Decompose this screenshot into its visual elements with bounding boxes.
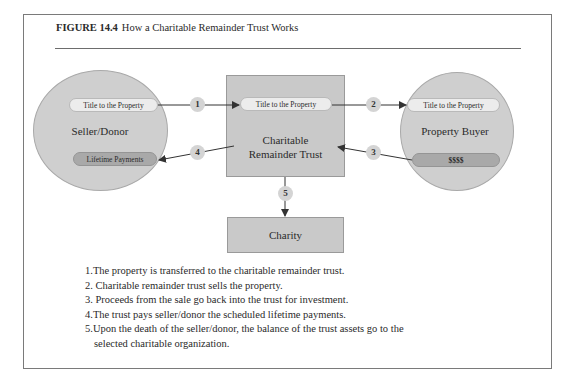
steps-list: 1.The property is transferred to the cha…	[85, 264, 545, 351]
step-item-4: 4.The trust pays seller/donor the schedu…	[85, 308, 545, 323]
step-badge-4: 4	[190, 145, 205, 160]
step-badge-2: 2	[366, 97, 381, 112]
step-badge-3: 3	[366, 145, 381, 160]
step-item-3: 3. Proceeds from the sale go back into t…	[85, 293, 545, 308]
step-badge-5: 5	[278, 186, 293, 201]
step-item-5: 5.Upon the death of the seller/donor, th…	[85, 322, 545, 351]
step-item-2: 2. Charitable remainder trust sells the …	[85, 279, 545, 294]
step-item-1: 1.The property is transferred to the cha…	[85, 264, 545, 279]
step-badge-1: 1	[190, 97, 205, 112]
